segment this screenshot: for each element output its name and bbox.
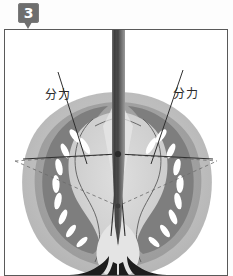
illustration-canvas: 分力 分力 (5, 30, 227, 275)
step-badge: 3 (18, 3, 42, 29)
component-force-label-left: 分力 (45, 89, 71, 101)
figure-root: 3 (0, 0, 233, 276)
cross-section-illustration (5, 30, 227, 275)
illustration-panel: 分力 分力 (4, 29, 228, 276)
component-force-label-right: 分力 (173, 88, 199, 100)
step-badge-pointer-icon (24, 22, 32, 29)
step-badge-number: 3 (18, 3, 39, 23)
